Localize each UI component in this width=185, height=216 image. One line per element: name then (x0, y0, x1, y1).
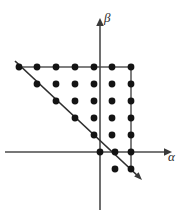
lattice-point (128, 81, 135, 88)
beta-axis-arrow-icon (96, 18, 104, 26)
lattice-point (109, 115, 116, 122)
lattice-point (72, 115, 79, 122)
lattice-point (128, 115, 135, 122)
lattice-point (109, 64, 116, 71)
lattice-point (34, 64, 41, 71)
lattice-point (91, 81, 98, 88)
lattice-point (109, 132, 116, 139)
lattice-point (109, 98, 116, 105)
lattice-point (112, 166, 119, 173)
diagonal-line-group (15, 61, 142, 180)
lattice-point (91, 64, 98, 71)
axis-lines (5, 18, 172, 210)
lattice-point (72, 98, 79, 105)
lattice-point (91, 115, 98, 122)
beta-axis-label: β (104, 11, 110, 24)
diagram-canvas (0, 0, 185, 216)
lattice-point (91, 132, 98, 139)
lattice-point (53, 98, 60, 105)
lattice-point (128, 132, 135, 139)
lattice-point (128, 64, 135, 71)
lattice-point (53, 64, 60, 71)
lattice-point (72, 81, 79, 88)
lattice-diagram-figure: β α (0, 0, 185, 216)
lattice-point (128, 166, 135, 173)
alpha-axis-label: α (168, 150, 175, 163)
lattice-point (34, 81, 41, 88)
lattice-point (128, 149, 135, 156)
lattice-point (128, 98, 135, 105)
lattice-point (109, 81, 116, 88)
lattice-point (91, 98, 98, 105)
lattice-point (16, 64, 23, 71)
lattice-point (112, 149, 119, 156)
lattice-point (72, 64, 79, 71)
lattice-point (53, 81, 60, 88)
lattice-point (97, 149, 104, 156)
